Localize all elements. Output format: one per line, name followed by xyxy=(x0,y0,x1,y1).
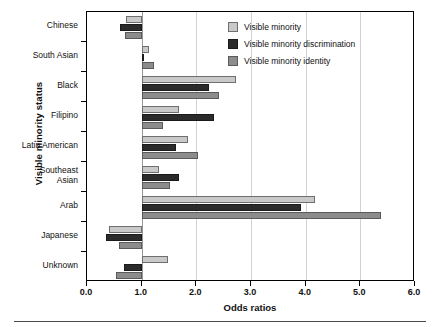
bar xyxy=(142,174,179,181)
x-tick-label: 6.0 xyxy=(394,287,434,297)
y-tick-mark xyxy=(81,161,86,162)
bar xyxy=(142,212,381,219)
y-tick-label: Filipino xyxy=(0,110,78,120)
legend-swatch-icon xyxy=(228,56,238,66)
bar xyxy=(119,242,142,249)
footer-rule xyxy=(14,321,426,322)
y-tick-mark xyxy=(81,191,86,192)
legend-label: Visible minority identity xyxy=(244,56,330,66)
y-tick-label: Unknown xyxy=(0,260,78,270)
y-tick-label: Latin American xyxy=(0,140,78,150)
y-tick-label: Japanese xyxy=(0,230,78,240)
bar xyxy=(126,16,141,23)
bar xyxy=(142,256,168,263)
bar xyxy=(142,122,163,129)
y-tick-label: SoutheastAsian xyxy=(0,165,78,185)
bar xyxy=(106,234,142,241)
bar xyxy=(142,84,209,91)
legend-label: Visible minority xyxy=(244,22,301,32)
legend-swatch-icon xyxy=(228,39,238,49)
bar xyxy=(125,32,141,39)
legend-label: Visible minority discrimination xyxy=(244,39,355,49)
legend-item: Visible minority discrimination xyxy=(228,37,355,51)
y-tick-mark xyxy=(81,131,86,132)
bar xyxy=(142,76,237,83)
x-tick-label: 0.0 xyxy=(66,287,106,297)
x-tick-label: 2.0 xyxy=(175,287,215,297)
bar xyxy=(116,272,142,279)
bar-group xyxy=(87,135,413,165)
y-tick-label: Chinese xyxy=(0,20,78,30)
bar xyxy=(142,204,301,211)
x-tick-label: 4.0 xyxy=(285,287,325,297)
bar xyxy=(124,264,141,271)
bar-group xyxy=(87,105,413,135)
x-tick-label: 1.0 xyxy=(121,287,161,297)
x-tick-mark xyxy=(414,281,415,286)
x-tick-mark xyxy=(359,281,360,286)
bar xyxy=(142,182,170,189)
bar xyxy=(142,152,198,159)
x-tick-mark xyxy=(195,281,196,286)
legend-item: Visible minority xyxy=(228,20,355,34)
bar-group xyxy=(87,225,413,255)
bar-group xyxy=(87,165,413,195)
y-tick-mark xyxy=(81,41,86,42)
x-axis-title: Odds ratios xyxy=(86,302,414,313)
x-tick-label: 5.0 xyxy=(339,287,379,297)
bar xyxy=(142,144,176,151)
y-tick-mark xyxy=(81,71,86,72)
bar xyxy=(142,92,219,99)
y-tick-mark xyxy=(81,221,86,222)
bar xyxy=(142,62,154,69)
x-tick-mark xyxy=(86,281,87,286)
bar xyxy=(142,54,144,61)
y-tick-label: South Asian xyxy=(0,50,78,60)
y-tick-label: Arab xyxy=(0,200,78,210)
chart-legend: Visible minorityVisible minority discrim… xyxy=(228,20,355,71)
bar xyxy=(142,196,315,203)
x-tick-label: 3.0 xyxy=(230,287,270,297)
x-tick-mark xyxy=(250,281,251,286)
bar xyxy=(109,226,142,233)
bar xyxy=(142,136,188,143)
y-tick-label: Black xyxy=(0,80,78,90)
y-tick-mark xyxy=(81,101,86,102)
legend-swatch-icon xyxy=(228,22,238,32)
bar xyxy=(142,166,159,173)
y-tick-mark xyxy=(81,251,86,252)
legend-item: Visible minority identity xyxy=(228,54,355,68)
bar xyxy=(120,24,142,31)
bar xyxy=(142,46,149,53)
x-tick-mark xyxy=(305,281,306,286)
bar xyxy=(142,114,214,121)
bar xyxy=(142,106,179,113)
figure: Visible minority status ChineseSouth Asi… xyxy=(0,0,437,327)
bar-group xyxy=(87,195,413,225)
bar-group xyxy=(87,75,413,105)
x-tick-mark xyxy=(141,281,142,286)
